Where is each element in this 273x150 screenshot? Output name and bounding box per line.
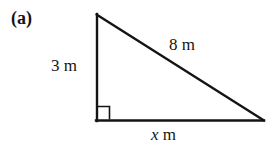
base-side-label: x m [151,126,176,143]
base-unit-text: m [163,125,176,144]
part-label: (a) [11,9,32,27]
right-triangle-diagram [0,0,273,150]
triangle-hypotenuse [97,15,265,121]
base-variable: x [151,125,159,144]
vertical-side-label: 3 m [51,57,77,74]
figure-container: (a) 3 m 8 m x m [0,0,273,150]
right-angle-marker-icon [97,107,110,120]
hypotenuse-label: 8 m [169,36,195,53]
